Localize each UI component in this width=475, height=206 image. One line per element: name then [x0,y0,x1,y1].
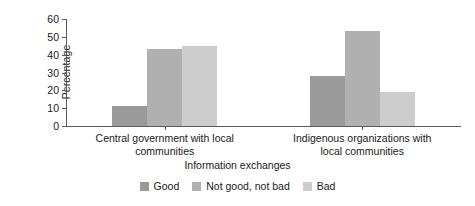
bar [147,49,182,126]
bar [345,31,380,126]
chart-legend: GoodNot good, not badBad [0,180,475,192]
legend-item: Bad [303,180,336,192]
bar [380,92,415,126]
y-tick-mark [62,108,66,109]
y-tick-mark [62,90,66,91]
y-tick-label: 10 [47,102,59,114]
x-tick-mark [165,126,166,130]
y-tick-mark [62,73,66,74]
legend-swatch-icon [192,182,201,191]
legend-label: Not good, not bad [206,180,289,192]
y-axis-line [66,19,67,126]
x-axis-group-label: Central government with local communitie… [70,132,260,158]
legend-label: Bad [317,180,336,192]
y-tick-mark [62,19,66,20]
x-tick-mark [362,126,363,130]
bar [112,106,147,126]
bar [310,76,345,126]
y-tick-mark [62,126,66,127]
x-axis-line [66,126,461,127]
legend-swatch-icon [303,182,312,191]
plot-area: 0102030405060 [66,19,461,126]
bar [182,46,217,126]
legend-label: Good [154,180,180,192]
x-axis-title: Information exchanges [0,159,475,171]
bar-chart: Percentage 0102030405060 Central governm… [0,0,475,206]
y-tick-mark [62,37,66,38]
y-tick-label: 60 [47,13,59,25]
legend-item: Good [140,180,180,192]
legend-swatch-icon [140,182,149,191]
y-tick-label: 20 [47,84,59,96]
y-tick-label: 30 [47,67,59,79]
y-tick-label: 50 [47,31,59,43]
x-axis-group-label: Indigenous organizations with local comm… [267,132,457,158]
y-tick-label: 40 [47,49,59,61]
legend-item: Not good, not bad [192,180,289,192]
y-tick-label: 0 [53,120,59,132]
y-tick-mark [62,55,66,56]
